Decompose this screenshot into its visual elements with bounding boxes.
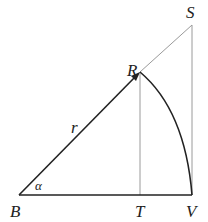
line-RS bbox=[140, 25, 192, 72]
label-R: R bbox=[126, 61, 138, 80]
label-S: S bbox=[186, 3, 195, 22]
label-r: r bbox=[71, 118, 78, 137]
arc-RV bbox=[140, 72, 192, 195]
vector-r bbox=[19, 75, 137, 195]
label-B: B bbox=[10, 202, 21, 221]
label-T: T bbox=[135, 202, 146, 221]
label-alpha: α bbox=[35, 178, 43, 193]
label-V: V bbox=[186, 202, 199, 221]
geometry-diagram: S R r α B T V bbox=[0, 0, 208, 222]
